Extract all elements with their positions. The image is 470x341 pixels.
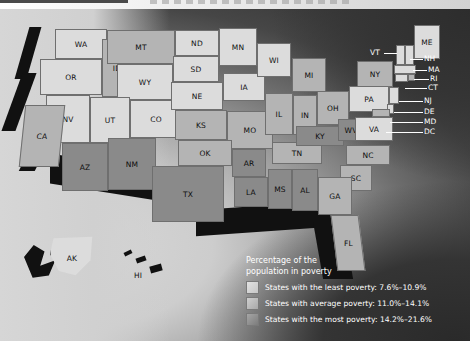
callout-label-MA: MA bbox=[428, 65, 440, 74]
hawaii-islands-shadow-3 bbox=[149, 264, 162, 274]
state-label-FL: FL bbox=[344, 239, 353, 248]
state-label-IA: IA bbox=[240, 83, 248, 92]
leader-line-DC bbox=[386, 132, 423, 133]
title-strip-text-ghost bbox=[150, 0, 350, 4]
state-label-ME: ME bbox=[421, 38, 433, 47]
legend-label-least: States with the least poverty: 7.6%–10.9… bbox=[265, 283, 427, 292]
state-NH-shape[interactable] bbox=[405, 45, 414, 65]
state-MS[interactable]: MS bbox=[268, 169, 292, 209]
state-WA[interactable]: WA bbox=[55, 29, 107, 59]
state-CA[interactable]: CA bbox=[19, 105, 66, 167]
state-label-PA: PA bbox=[364, 95, 374, 104]
callout-label-DC: DC bbox=[424, 127, 435, 136]
state-label-MT: MT bbox=[135, 43, 146, 52]
state-OR[interactable]: OR bbox=[40, 59, 102, 95]
leader-line-NH bbox=[410, 59, 423, 60]
callout-label-VT: VT bbox=[370, 48, 380, 57]
title-strip-bar bbox=[0, 0, 128, 3]
state-MI[interactable]: MI bbox=[292, 58, 326, 92]
state-GA[interactable]: GA bbox=[318, 177, 352, 215]
state-ND[interactable]: ND bbox=[175, 30, 219, 56]
legend-heading-line1: Percentage of the bbox=[246, 256, 460, 267]
cropped-title-strip bbox=[0, 0, 470, 9]
state-NM[interactable]: NM bbox=[108, 138, 156, 190]
state-label-KY: KY bbox=[315, 132, 325, 141]
state-label-OK: OK bbox=[199, 149, 210, 158]
leader-line-MD bbox=[390, 122, 423, 123]
alaska-inset[interactable]: AK bbox=[24, 235, 116, 301]
state-label-VA: VA bbox=[369, 125, 379, 134]
state-MT[interactable]: MT bbox=[107, 30, 175, 64]
state-OK[interactable]: OK bbox=[178, 140, 232, 166]
state-label-AL: AL bbox=[300, 186, 310, 195]
state-AZ[interactable]: AZ bbox=[62, 143, 108, 191]
state-WY[interactable]: WY bbox=[117, 64, 173, 100]
leader-line-DE bbox=[394, 112, 423, 113]
legend-label-average: States with average poverty: 11.0%–14.1% bbox=[265, 299, 429, 308]
state-AL[interactable]: AL bbox=[292, 169, 318, 211]
state-label-MS: MS bbox=[274, 185, 286, 194]
state-label-NC: NC bbox=[362, 151, 373, 160]
state-UT[interactable]: UT bbox=[90, 97, 130, 143]
callout-label-CT: CT bbox=[428, 83, 438, 92]
state-WI[interactable]: WI bbox=[257, 43, 291, 77]
state-label-NM: NM bbox=[126, 160, 138, 169]
state-label-HI: HI bbox=[134, 271, 142, 280]
legend-row-most[interactable]: States with the most poverty: 14.2%–21.6… bbox=[246, 313, 460, 326]
state-NC[interactable]: NC bbox=[346, 145, 390, 165]
state-label-KS: KS bbox=[196, 121, 206, 130]
callout-label-DE: DE bbox=[424, 107, 435, 116]
state-label-SD: SD bbox=[191, 65, 202, 74]
state-AR[interactable]: AR bbox=[232, 149, 266, 177]
state-label-TN: TN bbox=[292, 149, 303, 158]
state-KS[interactable]: KS bbox=[175, 110, 227, 140]
state-label-WY: WY bbox=[139, 78, 151, 87]
hawaii-inset[interactable]: HI bbox=[120, 245, 176, 291]
state-LA[interactable]: LA bbox=[234, 177, 268, 207]
state-CT-shape[interactable] bbox=[395, 74, 408, 82]
leader-line-MA bbox=[413, 70, 427, 71]
state-label-MI: MI bbox=[304, 71, 313, 80]
leader-line-VT bbox=[384, 53, 397, 54]
state-NE[interactable]: NE bbox=[171, 82, 223, 110]
state-MN[interactable]: MN bbox=[219, 28, 257, 66]
state-label-OR: OR bbox=[65, 73, 77, 82]
leader-line-NJ bbox=[399, 101, 423, 102]
state-label-NY: NY bbox=[370, 70, 381, 79]
state-NJ-shape[interactable] bbox=[389, 87, 399, 104]
state-MD-shape[interactable] bbox=[372, 109, 390, 117]
hawaii-islands-shadow-2 bbox=[135, 255, 146, 263]
legend-heading: Percentage of the population in poverty bbox=[246, 256, 460, 277]
state-KY[interactable]: KY bbox=[296, 126, 344, 146]
state-label-ND: ND bbox=[191, 39, 203, 48]
state-VT-shape[interactable] bbox=[396, 45, 405, 65]
state-label-LA: LA bbox=[246, 188, 256, 197]
state-TX[interactable]: TX bbox=[152, 166, 224, 222]
state-label-NE: NE bbox=[192, 92, 203, 101]
state-IA[interactable]: IA bbox=[223, 73, 265, 101]
callout-label-NJ: NJ bbox=[424, 96, 432, 105]
state-label-MO: MO bbox=[244, 126, 257, 135]
callout-label-NH: NH bbox=[424, 54, 435, 63]
state-label-UT: UT bbox=[105, 116, 115, 125]
state-label-AK: AK bbox=[67, 254, 77, 263]
state-IL[interactable]: IL bbox=[265, 93, 293, 135]
legend-row-least[interactable]: States with the least poverty: 7.6%–10.9… bbox=[246, 281, 460, 294]
state-label-GA: GA bbox=[329, 192, 340, 201]
leader-line-RI bbox=[414, 79, 429, 80]
us-choropleth-map: WA OR ID MT WY NV UT CO CA AZ NM ND SD N… bbox=[0, 9, 470, 341]
state-VA[interactable]: VA bbox=[355, 117, 393, 141]
state-label-IL: IL bbox=[276, 110, 283, 119]
state-label-MN: MN bbox=[232, 43, 244, 52]
state-NY[interactable]: NY bbox=[357, 61, 393, 87]
poverty-map-screenshot: WA OR ID MT WY NV UT CO CA AZ NM ND SD N… bbox=[0, 0, 470, 341]
legend-heading-line2: population in poverty bbox=[246, 267, 460, 278]
state-AK[interactable]: AK bbox=[50, 235, 94, 277]
state-label-AZ: AZ bbox=[80, 163, 91, 172]
legend-row-average[interactable]: States with average poverty: 11.0%–14.1% bbox=[246, 297, 460, 310]
state-SD[interactable]: SD bbox=[173, 56, 219, 82]
most-poverty-swatch bbox=[246, 313, 259, 326]
state-label-TX: TX bbox=[183, 190, 193, 199]
state-label-WA: WA bbox=[75, 40, 88, 49]
state-label-WI: WI bbox=[269, 56, 279, 65]
